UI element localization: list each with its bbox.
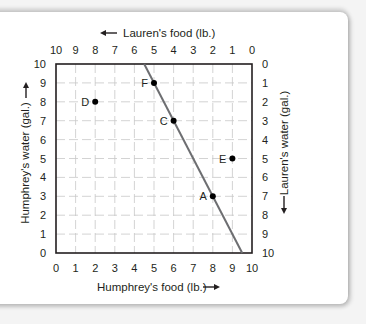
x2-tick-label: 4 bbox=[171, 44, 177, 56]
point-e bbox=[229, 156, 235, 162]
up-arrowhead-icon bbox=[23, 82, 29, 88]
y2-tick-label: 6 bbox=[262, 171, 268, 183]
edgeworth-box-chart: 0123456789101098765432100123456789101098… bbox=[0, 0, 366, 324]
x2-tick-label: 9 bbox=[73, 44, 79, 56]
y2-tick-label: 1 bbox=[262, 77, 268, 89]
x-tick-label: 7 bbox=[190, 262, 196, 274]
y2-tick-label: 9 bbox=[262, 228, 268, 240]
y-tick-label: 2 bbox=[40, 209, 46, 221]
y2-tick-label: 5 bbox=[262, 153, 268, 165]
x2-tick-label: 10 bbox=[50, 44, 62, 56]
x2-tick-label: 3 bbox=[190, 44, 196, 56]
y2-axis-label: Lauren's water (gal.) bbox=[278, 91, 290, 196]
y-tick-label: 4 bbox=[40, 171, 46, 183]
point-label-c: C bbox=[160, 115, 168, 127]
y2-tick-label: 7 bbox=[262, 190, 268, 202]
y-tick-label: 10 bbox=[34, 58, 46, 70]
y2-tick-label: 4 bbox=[262, 134, 268, 146]
x2-tick-label: 5 bbox=[151, 44, 157, 56]
point-a bbox=[210, 193, 216, 199]
y-tick-label: 8 bbox=[40, 96, 46, 108]
x2-tick-label: 2 bbox=[210, 44, 216, 56]
y-tick-label: 3 bbox=[40, 190, 46, 202]
x-tick-label: 10 bbox=[246, 262, 258, 274]
x2-tick-label: 7 bbox=[112, 44, 118, 56]
x2-axis-label: Lauren's food (lb.) bbox=[123, 27, 216, 39]
y-axis-label: Humphrey's water (gal.) bbox=[19, 102, 31, 224]
x-tick-label: 6 bbox=[171, 262, 177, 274]
point-f bbox=[151, 80, 157, 86]
x2-tick-label: 8 bbox=[92, 44, 98, 56]
x-tick-label: 8 bbox=[210, 262, 216, 274]
x-axis-label: Humphrey's food (lb.) bbox=[97, 281, 207, 293]
x-tick-label: 1 bbox=[73, 262, 79, 274]
x2-tick-label: 1 bbox=[229, 44, 235, 56]
x-tick-label: 5 bbox=[151, 262, 157, 274]
y-tick-label: 5 bbox=[40, 153, 46, 165]
point-label-a: A bbox=[199, 190, 207, 202]
x2-tick-label: 6 bbox=[131, 44, 137, 56]
y2-tick-label: 8 bbox=[262, 209, 268, 221]
x-tick-label: 4 bbox=[131, 262, 137, 274]
point-label-e: E bbox=[219, 153, 226, 165]
y2-tick-label: 0 bbox=[262, 58, 268, 70]
y-tick-label: 0 bbox=[40, 247, 46, 259]
point-c bbox=[171, 118, 177, 124]
point-d bbox=[92, 99, 98, 105]
x-tick-label: 3 bbox=[112, 262, 118, 274]
y-tick-label: 9 bbox=[40, 77, 46, 89]
x-tick-label: 0 bbox=[53, 262, 59, 274]
left-arrowhead-icon bbox=[100, 30, 106, 36]
y2-tick-label: 10 bbox=[262, 247, 274, 259]
point-label-f: F bbox=[141, 77, 148, 89]
y-tick-label: 6 bbox=[40, 134, 46, 146]
y-tick-label: 7 bbox=[40, 115, 46, 127]
x-tick-label: 2 bbox=[92, 262, 98, 274]
point-label-d: D bbox=[81, 96, 89, 108]
y-tick-label: 1 bbox=[40, 228, 46, 240]
y2-tick-label: 2 bbox=[262, 96, 268, 108]
right-arrowhead-icon bbox=[214, 284, 220, 290]
x-tick-label: 9 bbox=[229, 262, 235, 274]
down-arrowhead-icon bbox=[281, 208, 287, 214]
x2-tick-label: 0 bbox=[249, 44, 255, 56]
y2-tick-label: 3 bbox=[262, 115, 268, 127]
